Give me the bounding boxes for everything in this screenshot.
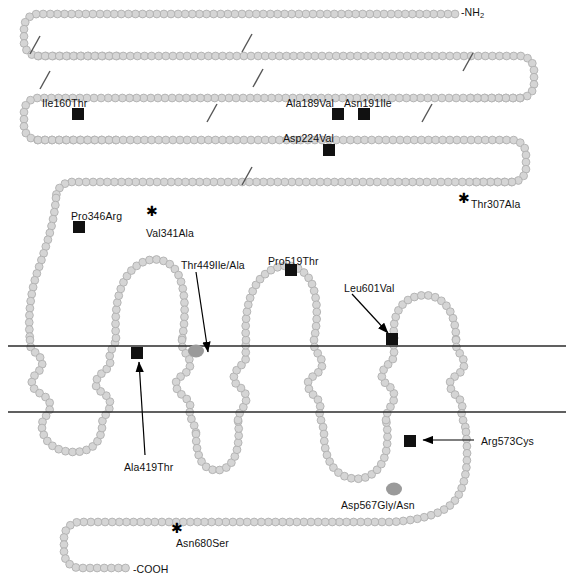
mutation-marker-thr449ile_ala (188, 345, 204, 358)
mutation-marker-asp224val (323, 144, 335, 156)
mutation-marker-ala419thr (131, 347, 143, 359)
tick-tick-5 (253, 69, 263, 87)
label-asp567glyasn: Asp567Gly/Asn (341, 500, 415, 511)
label-c-terminus: -COOH (133, 564, 169, 575)
label-leu601val: Leu601Val (344, 283, 394, 294)
mutation-marker-pro346arg (73, 221, 85, 233)
mutation-marker-asp567gly_asn (386, 483, 402, 496)
membrane-boundary-lines (8, 346, 566, 412)
topology-svg: ✱✱✱ (0, 0, 568, 583)
mutation-marker-asn680ser: ✱ (171, 520, 183, 536)
label-val341ala: Val341Ala (146, 228, 194, 239)
mutation-marker-val341ala: ✱ (146, 203, 158, 219)
label-asp224val: Asp224Val (283, 133, 334, 144)
leader-leu601 (352, 294, 388, 333)
mutation-marker-leu601val (386, 333, 398, 345)
label-n-terminus: -NH2 (461, 7, 484, 19)
label-ala419thr: Ala419Thr (124, 462, 173, 473)
label-ala189val: Ala189Val (286, 98, 334, 109)
leader-thr449 (196, 272, 208, 352)
tick-tick-6 (207, 104, 217, 122)
residue-bead-chain (20, 10, 538, 572)
tick-tick-2 (242, 34, 252, 52)
tick-tick-1 (30, 36, 40, 54)
mutation-marker-thr307ala: ✱ (458, 190, 470, 206)
label-pro346arg: Pro346Arg (71, 211, 122, 222)
mutation-marker-asn191ile (358, 108, 370, 120)
tick-tick-4 (40, 71, 50, 89)
mutation-marker-ile160thr (72, 108, 84, 120)
mutation-marker-ala189val (332, 108, 344, 120)
label-thr307ala: Thr307Ala (471, 199, 520, 210)
label-thr449ileala: Thr449Ile/Ala (181, 260, 245, 271)
diagram-canvas: ✱✱✱ -NH2 Ile160Thr Ala189Val Asn191Ile A… (0, 0, 568, 583)
leader-ala419 (139, 362, 145, 455)
mutation-marker-arg573cys (404, 435, 416, 447)
label-arg573cys: Arg573Cys (481, 436, 534, 447)
label-asn680ser: Asn680Ser (176, 538, 229, 549)
label-pro519thr: Pro519Thr (268, 256, 319, 267)
label-ile160thr: Ile160Thr (42, 98, 87, 109)
label-asn191ile: Asn191Ile (344, 98, 392, 109)
tick-tick-7 (422, 104, 432, 122)
